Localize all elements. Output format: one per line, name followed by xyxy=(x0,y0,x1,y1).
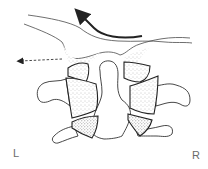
soft-tissue-lines xyxy=(24,15,192,59)
vertebra-diagram xyxy=(0,0,208,169)
right-side-label: R xyxy=(192,150,200,161)
right-facet-joint xyxy=(124,62,158,136)
left-side-label: L xyxy=(13,148,19,159)
dashed-arrow xyxy=(20,59,62,61)
vertebra-outline xyxy=(37,61,190,143)
